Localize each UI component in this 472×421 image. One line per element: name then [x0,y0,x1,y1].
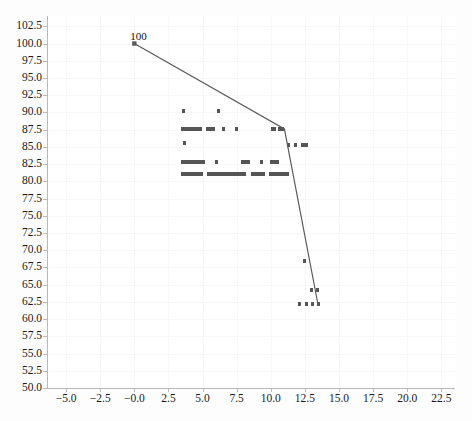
y-tick-label: 60.0 [0,312,42,324]
y-axis-line [47,16,48,388]
y-tick-mark [43,302,47,303]
y-tick-label: 82.5 [0,157,42,169]
scatter-marker [287,143,290,147]
y-tick-mark [43,336,47,337]
y-tick-mark [43,181,47,182]
gridline-horizontal [47,61,455,62]
y-tick-label: 72.5 [0,226,42,238]
gridline-horizontal [47,26,455,27]
x-tick-mark [271,388,272,392]
scatter-marker [316,288,319,292]
gridline-vertical [168,16,169,388]
y-tick-mark [43,250,47,251]
gridline-vertical [66,16,67,388]
scatter-marker [317,302,320,306]
y-tick-label: 97.5 [0,54,42,66]
y-tick-label: 67.5 [0,260,42,272]
y-tick-mark [43,388,47,389]
gridline-horizontal [47,44,455,45]
scatter-marker [278,127,284,131]
y-tick-mark [43,199,47,200]
scatter-marker [183,141,186,145]
gridline-vertical [237,16,238,388]
scatter-marker [215,160,218,164]
y-tick-mark [43,78,47,79]
scatter-marker [310,288,313,292]
x-tick-mark [66,388,67,392]
x-tick-mark [100,388,101,392]
y-tick-label: 62.5 [0,295,42,307]
gridline-horizontal [47,371,455,372]
y-tick-mark [43,267,47,268]
y-tick-label: 85.0 [0,140,42,152]
y-tick-label: 100.0 [0,37,42,49]
y-tick-label: 55.0 [0,347,42,359]
gridline-vertical [305,16,306,388]
x-tick-mark [134,388,135,392]
x-tick-label: 22.5 [419,392,463,404]
gridline-vertical [203,16,204,388]
scatter-marker [294,143,297,147]
y-tick-mark [43,130,47,131]
gridline-vertical [373,16,374,388]
scatter-marker [271,127,276,131]
scatter-marker [207,172,246,176]
y-tick-label: 80.0 [0,174,42,186]
gridline-horizontal [47,336,455,337]
scatter-marker [181,172,203,176]
gridline-vertical [441,16,442,388]
y-tick-mark [43,285,47,286]
y-tick-mark [43,44,47,45]
plot-area [47,16,455,388]
gridline-horizontal [47,319,455,320]
y-tick-mark [43,61,47,62]
scatter-marker [305,302,308,306]
scatter-marker [298,302,301,306]
gridline-horizontal [47,164,455,165]
scatter-marker [311,302,314,306]
gridline-horizontal [47,267,455,268]
y-tick-mark [43,319,47,320]
y-tick-label: 70.0 [0,243,42,255]
scatter-marker [206,127,215,131]
gridline-horizontal [47,216,455,217]
x-tick-mark [407,388,408,392]
y-tick-label: 57.5 [0,329,42,341]
y-tick-label: 102.5 [0,19,42,31]
x-tick-mark [168,388,169,392]
gridline-vertical [134,16,135,388]
y-tick-mark [43,216,47,217]
scatter-marker [270,160,279,164]
scatter-marker [217,109,220,113]
gridline-horizontal [47,147,455,148]
gridline-vertical [407,16,408,388]
gridline-vertical [271,16,272,388]
scatter-marker [182,109,185,113]
y-tick-label: 92.5 [0,88,42,100]
scatter-marker [181,127,202,131]
y-tick-label: 90.0 [0,105,42,117]
scatter-marker [235,127,238,131]
gridline-horizontal [47,285,455,286]
scatter-marker [222,127,225,131]
y-tick-mark [43,26,47,27]
scatter-marker [241,160,250,164]
y-tick-mark [43,164,47,165]
x-tick-mark [203,388,204,392]
y-tick-label: 52.5 [0,364,42,376]
gridline-horizontal [47,95,455,96]
scatter-marker [251,172,265,176]
scatter-marker [181,160,205,164]
y-tick-label: 75.0 [0,209,42,221]
gridline-horizontal [47,78,455,79]
gridline-horizontal [47,233,455,234]
y-tick-label: 87.5 [0,123,42,135]
x-tick-mark [373,388,374,392]
scatter-marker [301,143,309,147]
y-tick-mark [43,112,47,113]
gridline-vertical [100,16,101,388]
y-tick-mark [43,233,47,234]
y-tick-mark [43,95,47,96]
y-tick-mark [43,354,47,355]
y-tick-label: 77.5 [0,192,42,204]
